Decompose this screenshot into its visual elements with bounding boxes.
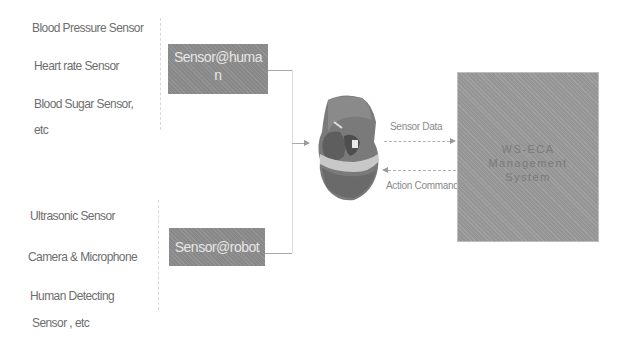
human-bracket-line xyxy=(160,18,161,130)
action-command-label: Action Command xyxy=(386,180,459,191)
sensor-human-line2: n xyxy=(168,66,268,84)
arrow-right-icon xyxy=(304,140,310,146)
sensor-label-etc: etc xyxy=(34,122,48,137)
connector-robot xyxy=(265,253,292,254)
sensor-data-label: Sensor Data xyxy=(390,121,442,132)
robot-icon xyxy=(314,92,384,204)
sensor-human-box: Sensor@huma n xyxy=(168,44,268,94)
sensor-robot-box: Sensor@robot xyxy=(169,228,265,266)
management-line3: System xyxy=(458,170,598,184)
sensor-robot-label: Sensor@robot xyxy=(175,239,259,255)
management-line2: Management xyxy=(458,156,598,170)
connector-vertical xyxy=(292,70,293,253)
sensor-label-human-detecting: Human Detecting xyxy=(30,288,114,303)
sensor-label-ultrasonic: Ultrasonic Sensor xyxy=(30,208,115,223)
action-command-arrow xyxy=(388,170,456,171)
management-text: WS-ECA Management System xyxy=(458,142,598,184)
arrow-right-icon xyxy=(450,138,456,144)
ws-eca-management-box: WS-ECA Management System xyxy=(457,72,599,242)
sensor-label-sensor-etc: Sensor , etc xyxy=(32,315,89,330)
sensor-data-arrow xyxy=(384,141,450,142)
sensor-label-blood-pressure: Blood Pressure Sensor xyxy=(32,20,143,35)
sensor-label-camera-microphone: Camera & Microphone xyxy=(28,249,137,264)
sensor-label-heart-rate: Heart rate Sensor xyxy=(34,58,119,73)
management-line1: WS-ECA xyxy=(458,142,598,156)
robot-bracket-line xyxy=(158,200,159,310)
connector-human xyxy=(268,70,292,71)
sensor-label-blood-sugar: Blood Sugar Sensor, xyxy=(34,96,133,111)
sensor-human-line1: Sensor@huma xyxy=(168,44,268,66)
robot-image xyxy=(314,92,384,204)
